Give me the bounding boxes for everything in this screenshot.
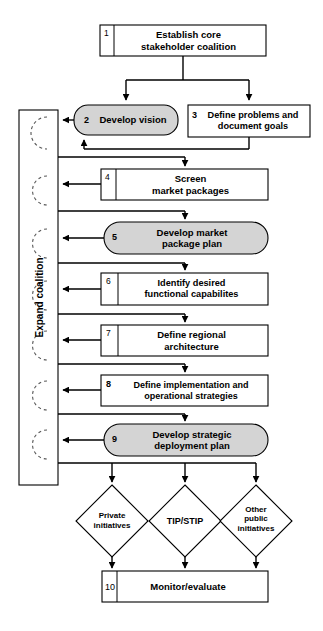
- shape-d2: [149, 485, 221, 557]
- shape-n2: [74, 105, 178, 135]
- flowchart-graphics: [0, 0, 323, 631]
- shape-n5: [104, 222, 268, 254]
- shape-expand-coalition: [19, 110, 58, 485]
- shape-d3: [220, 485, 292, 557]
- shape-n3: [188, 105, 310, 137]
- shape-n1: [100, 25, 266, 56]
- shape-n4: [101, 169, 268, 200]
- shape-n7: [101, 325, 268, 356]
- shape-n9: [104, 424, 268, 456]
- shape-n10: [102, 571, 268, 602]
- flowchart-canvas: Expand coalition 1 Establish core stakeh…: [0, 0, 323, 631]
- shape-n6: [101, 273, 268, 305]
- shape-n8: [101, 375, 268, 406]
- shape-d1: [76, 485, 148, 557]
